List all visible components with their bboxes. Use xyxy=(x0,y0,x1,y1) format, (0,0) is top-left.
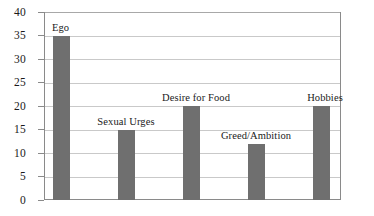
y-axis-tick-label: 10 xyxy=(0,148,26,160)
gridline-35 xyxy=(45,36,340,37)
bar-label-sexual-urges: Sexual Urges xyxy=(91,116,161,127)
bar-label-desire-for-food: Desire for Food xyxy=(148,92,244,103)
bar-label-hobbies: Hobbies xyxy=(287,92,363,103)
bar-ego[interactable] xyxy=(53,36,70,201)
bar-hobbies[interactable] xyxy=(313,106,330,200)
bar-sexual-urges[interactable] xyxy=(118,130,135,201)
y-axis-tick-label: 20 xyxy=(0,101,26,113)
y-axis-tick-label: 25 xyxy=(0,77,26,89)
gridline-40 xyxy=(45,12,340,13)
y-axis-tick-label: 0 xyxy=(0,195,26,207)
plot-area xyxy=(44,12,341,200)
gridline-30 xyxy=(45,59,340,60)
y-axis-tick-label: 30 xyxy=(0,54,26,66)
y-axis-tick-label: 40 xyxy=(0,7,26,19)
y-axis-tick-label: 5 xyxy=(0,171,26,183)
bar-desire-for-food[interactable] xyxy=(183,106,200,200)
gridline-25 xyxy=(45,83,340,84)
bar-chart: 40 35 30 25 20 15 10 5 0 Ego Sexual Urge… xyxy=(0,0,374,216)
y-axis-tick-label: 15 xyxy=(0,124,26,136)
bar-label-greed-ambition: Greed/Ambition xyxy=(208,130,304,141)
y-axis-tick-mark xyxy=(38,200,44,201)
bar-greed-ambition[interactable] xyxy=(248,144,265,200)
y-axis-tick-label: 35 xyxy=(0,30,26,42)
bar-label-ego: Ego xyxy=(52,22,69,33)
